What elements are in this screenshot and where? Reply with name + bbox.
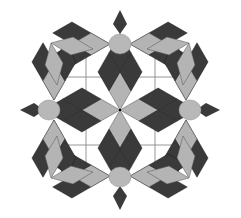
tiling-figure bbox=[0, 0, 241, 218]
hub-petal bbox=[113, 186, 127, 210]
hub-circle-bottom bbox=[109, 167, 131, 187]
hub-petal bbox=[113, 10, 127, 34]
center-point bbox=[119, 109, 121, 111]
hub-circle-right bbox=[179, 100, 201, 120]
tiling-svg bbox=[0, 0, 241, 218]
hub-circle-top bbox=[109, 34, 131, 54]
hub-circle-left bbox=[38, 100, 60, 120]
